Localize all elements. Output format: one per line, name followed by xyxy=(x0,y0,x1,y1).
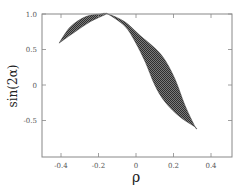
x-tick-label: -0.4 xyxy=(54,162,68,170)
shaded-band xyxy=(59,13,197,129)
x-tick-label: 0.4 xyxy=(205,162,217,170)
x-tick-label: 0.2 xyxy=(168,162,179,170)
band-area xyxy=(59,13,197,129)
x-tick-label: -0.2 xyxy=(92,162,106,170)
chart: -0.4-0.200.20.4 1.00.50-0.5 ρ sin(2α) xyxy=(0,0,243,191)
y-tick-label: 0.5 xyxy=(26,46,37,54)
y-tick-label: 0 xyxy=(33,82,37,90)
y-axis-label: sin(2α) xyxy=(6,65,20,108)
x-axis-label: ρ xyxy=(132,169,140,185)
y-tick-label: 1.0 xyxy=(26,11,37,19)
y-tick-label: -0.5 xyxy=(24,117,38,125)
